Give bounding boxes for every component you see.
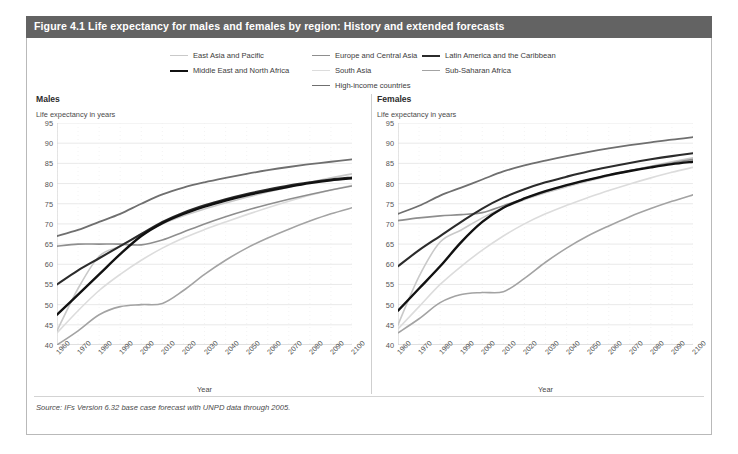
- legend-swatch-icon: [312, 70, 330, 71]
- legend-item-latin-america-and-the-caribbean[interactable]: Latin America and the Caribbean: [422, 49, 556, 62]
- panel-divider: [371, 94, 372, 394]
- y-tick-label: 75: [386, 199, 394, 208]
- y-tick-label: 55: [45, 280, 53, 289]
- legend-item-sub-saharan-africa[interactable]: Sub-Saharan Africa: [422, 64, 511, 77]
- panel-males-title: Males: [36, 94, 60, 104]
- legend-item-middle-east-and-north-africa[interactable]: Middle East and North Africa: [170, 64, 289, 77]
- y-tick-label: 50: [386, 300, 394, 309]
- y-tick-label: 85: [386, 159, 394, 168]
- series-line-sub-saharan-africa: [57, 208, 352, 345]
- y-tick-label: 95: [386, 119, 394, 128]
- y-tick-label: 40: [45, 341, 53, 350]
- y-tick-label: 70: [45, 219, 53, 228]
- legend-swatch-icon: [422, 70, 440, 71]
- legend-swatch-icon: [312, 85, 330, 86]
- y-tick-label: 45: [386, 320, 394, 329]
- legend-label: South Asia: [335, 66, 371, 75]
- panel-females: Females Life expectancy in years 4045505…: [377, 94, 707, 400]
- panel-females-title: Females: [377, 94, 411, 104]
- legend-item-high-income-countries[interactable]: High-income countries: [312, 79, 411, 92]
- series-line-middle-east-and-north-africa: [398, 162, 693, 311]
- y-tick-label: 65: [386, 240, 394, 249]
- y-tick-label: 90: [386, 139, 394, 148]
- legend-item-east-asia-and-pacific[interactable]: East Asia and Pacific: [170, 49, 264, 62]
- x-axis-labels-females: 1960197019801990200020102020203020402050…: [398, 347, 693, 383]
- series-line-latin-america-and-the-caribbean: [57, 177, 352, 284]
- x-axis-labels-males: 1960197019801990200020102020203020402050…: [57, 347, 352, 383]
- x-axis-title-males: Year: [57, 385, 352, 394]
- figure-title: Figure 4.1 Life expectancy for males and…: [34, 20, 704, 32]
- legend-label: High-income countries: [335, 81, 411, 90]
- y-tick-label: 90: [45, 139, 53, 148]
- chart-legend: East Asia and PacificEurope and Central …: [170, 49, 590, 91]
- legend-label: Middle East and North Africa: [193, 66, 289, 75]
- y-axis-labels-females: 404550556065707580859095: [377, 123, 396, 345]
- y-tick-label: 40: [386, 341, 394, 350]
- y-tick-label: 55: [386, 280, 394, 289]
- figure-root: Figure 4.1 Life expectancy for males and…: [0, 0, 738, 454]
- legend-swatch-icon: [312, 55, 330, 56]
- legend-swatch-icon: [422, 55, 440, 57]
- plot-area-males: [57, 123, 352, 345]
- legend-label: Sub-Saharan Africa: [445, 66, 511, 75]
- x-axis-title-females: Year: [398, 385, 693, 394]
- y-tick-label: 70: [386, 219, 394, 228]
- legend-item-south-asia[interactable]: South Asia: [312, 64, 371, 77]
- series-line-europe-and-central-asia: [57, 186, 352, 246]
- y-tick-label: 80: [45, 179, 53, 188]
- legend-label: Latin America and the Caribbean: [445, 51, 556, 60]
- y-tick-label: 80: [386, 179, 394, 188]
- source-note: Source: IFs Version 6.32 base case forec…: [36, 403, 290, 412]
- series-line-middle-east-and-north-africa: [57, 178, 352, 314]
- panel-males: Males Life expectancy in years 404550556…: [36, 94, 366, 400]
- line-chart-svg: [57, 123, 352, 345]
- legend-item-europe-and-central-asia[interactable]: Europe and Central Asia: [312, 49, 417, 62]
- y-tick-label: 50: [45, 300, 53, 309]
- line-chart-svg: [398, 123, 693, 345]
- legend-swatch-icon: [170, 55, 188, 56]
- legend-label: Europe and Central Asia: [335, 51, 417, 60]
- y-tick-label: 95: [45, 119, 53, 128]
- y-axis-labels-males: 404550556065707580859095: [36, 123, 55, 345]
- y-tick-label: 45: [45, 320, 53, 329]
- plot-area-females: [398, 123, 693, 345]
- source-divider: [34, 396, 704, 397]
- y-tick-label: 60: [386, 260, 394, 269]
- legend-swatch-icon: [170, 70, 188, 72]
- y-tick-label: 60: [45, 260, 53, 269]
- legend-label: East Asia and Pacific: [193, 51, 264, 60]
- y-tick-label: 65: [45, 240, 53, 249]
- y-tick-label: 75: [45, 199, 53, 208]
- y-tick-label: 85: [45, 159, 53, 168]
